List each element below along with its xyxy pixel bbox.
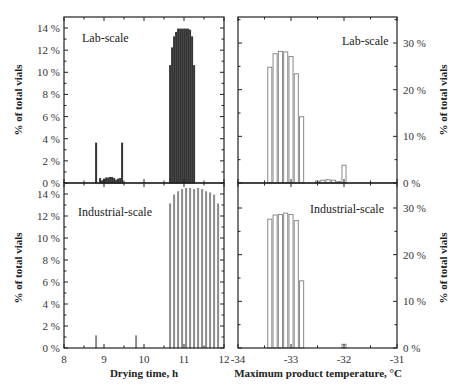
bar <box>294 221 298 348</box>
bar <box>136 336 137 348</box>
bar <box>210 193 211 348</box>
bar <box>174 37 175 183</box>
bar <box>114 179 115 183</box>
y-tick-label: 8 % <box>43 254 60 266</box>
bar <box>273 215 277 348</box>
bar <box>192 37 193 183</box>
x-tick-label: 9 <box>101 353 107 365</box>
bar <box>284 213 288 348</box>
y-axis-title-left-top: % of total vials <box>12 64 24 136</box>
x-axis-title-temperature: Maximum product temperature, °C <box>234 367 402 379</box>
y-tick-label: 10 % <box>403 130 426 142</box>
y-tick-label: 30 % <box>403 37 426 49</box>
y-tick-label: 0 % <box>403 177 420 189</box>
y-tick-label: 4 % <box>43 133 60 145</box>
bar <box>120 179 121 183</box>
bar <box>190 30 191 183</box>
bar <box>190 189 191 349</box>
bar <box>206 192 207 348</box>
bar <box>289 57 293 183</box>
y-tick-label: 0 % <box>43 342 60 354</box>
bar <box>96 336 97 348</box>
bar <box>289 215 293 348</box>
panel-label-temp-lab: Lab-scale <box>342 34 389 48</box>
bar <box>284 52 288 183</box>
bar <box>202 190 203 348</box>
bar <box>96 143 97 183</box>
bar <box>186 29 187 183</box>
panel-drying-lab-bars <box>96 29 195 183</box>
bar <box>300 281 304 348</box>
bar <box>182 190 183 348</box>
bar <box>178 29 179 183</box>
x-tick-label: 10 <box>139 353 151 365</box>
bar <box>100 179 101 183</box>
bar <box>180 29 181 183</box>
y-tick-label: 2 % <box>43 155 60 167</box>
bar <box>186 189 187 349</box>
y-tick-label: 14 % <box>37 22 60 34</box>
panel-label-drying-lab: Lab-scale <box>82 31 129 45</box>
y-tick-label: 12 % <box>37 44 60 56</box>
bar <box>188 29 189 183</box>
y-tick-label: 4 % <box>43 298 60 310</box>
panel-temp-industrial-bars <box>268 213 346 348</box>
bar <box>214 195 215 348</box>
y-tick-label: 20 % <box>403 84 426 96</box>
bar <box>278 51 282 183</box>
bar <box>176 32 177 183</box>
bar <box>194 190 195 348</box>
panel-label-temp-industrial: Industrial-scale <box>310 202 384 216</box>
bar <box>278 215 282 348</box>
bar <box>170 66 171 183</box>
x-tick-label: -32 <box>337 353 352 365</box>
y-tick-label: 6 % <box>43 111 60 123</box>
bar <box>218 204 219 348</box>
y-tick-label: 30 % <box>403 202 426 214</box>
y-tick-label: 10 % <box>403 295 426 307</box>
x-axis-title-drying: Drying time, h <box>110 367 178 379</box>
bar <box>198 189 199 349</box>
bar <box>268 219 272 348</box>
bar <box>268 67 272 183</box>
frames-layer <box>64 17 397 348</box>
bar <box>110 177 111 183</box>
y-tick-label: 12 % <box>37 210 60 222</box>
panel-temp-industrial-y-axis: 0 %10 %20 %30 % <box>238 202 426 354</box>
panel-temp-lab-y-axis: 0 %10 %20 %30 % <box>238 20 426 189</box>
bar <box>174 195 175 348</box>
x-tick-label: 8 <box>61 353 67 365</box>
bar <box>273 54 277 183</box>
y-tick-label: 14 % <box>37 188 60 200</box>
x-tick-label: -31 <box>390 353 405 365</box>
bar <box>108 178 109 183</box>
y-axis-title-right-top: % of total vials <box>437 64 449 136</box>
x-tick-label: -33 <box>284 353 299 365</box>
bar <box>294 74 298 183</box>
bar <box>194 66 195 183</box>
y-tick-label: 2 % <box>43 320 60 332</box>
x-tick-label: 11 <box>179 353 190 365</box>
bar <box>178 192 179 348</box>
figure: 0 %2 %4 %6 %8 %10 %12 %14 %0 %2 %4 %6 %8… <box>0 0 462 392</box>
x-tick-label: -34 <box>231 353 246 365</box>
y-tick-label: 6 % <box>43 276 60 288</box>
bars-layer <box>96 29 346 348</box>
ticks-layer: 0 %2 %4 %6 %8 %10 %12 %14 %0 %2 %4 %6 %8… <box>37 17 426 365</box>
panel-drying-lab-y-axis: 0 %2 %4 %6 %8 %10 %12 %14 % <box>37 22 224 189</box>
y-tick-label: 20 % <box>403 249 426 261</box>
bar <box>184 29 185 183</box>
bar <box>122 143 123 183</box>
y-tick-label: 10 % <box>37 66 60 78</box>
y-axis-title-right-bottom: % of total vials <box>437 232 449 304</box>
bar <box>300 117 304 183</box>
bar <box>106 178 107 183</box>
y-tick-label: 10 % <box>37 232 60 244</box>
y-tick-label: 8 % <box>43 88 60 100</box>
bar <box>170 204 171 348</box>
y-axis-title-left-bottom: % of total vials <box>12 232 24 304</box>
panel-temp-lab-bars <box>268 51 346 183</box>
panel-label-drying-industrial: Industrial-scale <box>78 205 152 219</box>
x-tick-label: 12 <box>219 353 230 365</box>
bar <box>172 48 173 183</box>
